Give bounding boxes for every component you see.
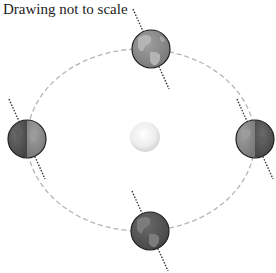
earth-left xyxy=(8,99,46,179)
orbit-diagram xyxy=(0,0,276,273)
earth-bottom xyxy=(131,191,169,271)
earth-right xyxy=(236,99,274,179)
earth-top xyxy=(132,9,170,89)
sun xyxy=(130,122,160,152)
diagram-stage: Drawing not to scale xyxy=(0,0,276,273)
